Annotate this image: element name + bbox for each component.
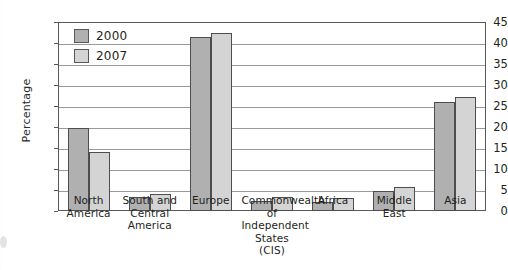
- x-axis-label-line: Asia: [425, 194, 486, 207]
- chart-legend: 2000 2007: [74, 26, 127, 66]
- x-axis-label-line: of Independent: [241, 207, 302, 232]
- x-axis-label: Africa: [303, 194, 364, 207]
- legend-item: 2007: [74, 46, 127, 66]
- bar-group: [180, 22, 241, 211]
- bar: [211, 33, 232, 211]
- x-axis-label: Commonwealthof IndependentStates (CIS): [241, 194, 302, 257]
- bar-group: [241, 22, 302, 211]
- legend-swatch-2007-icon: [74, 49, 89, 63]
- legend-label: 2007: [96, 49, 127, 63]
- x-axis-label: Asia: [425, 194, 486, 207]
- x-axis-label: Europe: [180, 194, 241, 207]
- x-axis-label-line: South and: [119, 194, 180, 207]
- x-axis-label-line: States (CIS): [241, 232, 302, 257]
- bar-group: [303, 22, 364, 211]
- x-axis-label-line: Europe: [180, 194, 241, 207]
- x-axis-label-line: Africa: [303, 194, 364, 207]
- x-axis-label-line: North: [58, 194, 119, 207]
- scan-edge-artifact: [0, 0, 3, 270]
- bar-group: [425, 22, 486, 211]
- bar-group: [364, 22, 425, 211]
- x-axis-label-line: Commonwealth: [241, 194, 302, 207]
- scan-corner-artifact: [0, 236, 7, 248]
- x-axis-label-line: America: [119, 219, 180, 232]
- legend-item: 2000: [74, 26, 127, 46]
- x-axis-label: NorthAmerica: [58, 194, 119, 219]
- x-axis-label-line: Central: [119, 207, 180, 220]
- bar-chart: Percentage 051015202530354045 NorthAmeri…: [0, 0, 508, 270]
- legend-label: 2000: [96, 29, 127, 43]
- x-axis-label: South andCentralAmerica: [119, 194, 180, 232]
- bar-group: [119, 22, 180, 211]
- y-axis-title: Percentage: [20, 36, 33, 186]
- legend-swatch-2000-icon: [74, 29, 89, 43]
- bar: [190, 37, 211, 211]
- x-axis-label-line: America: [58, 207, 119, 220]
- x-axis-label: MiddleEast: [364, 194, 425, 219]
- x-axis-label-line: Middle: [364, 194, 425, 207]
- x-axis-label-line: East: [364, 207, 425, 220]
